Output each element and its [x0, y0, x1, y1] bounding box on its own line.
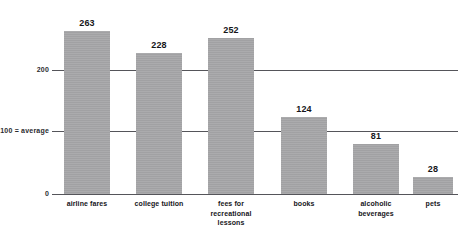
- y-axis-label-200: 200: [37, 66, 49, 73]
- bar-pets: [413, 177, 453, 194]
- x-axis-category-label: college tuition: [122, 199, 196, 209]
- bar-value-label: 28: [413, 164, 453, 174]
- bar-college-tuition: [136, 53, 182, 194]
- bar-value-label: 263: [64, 18, 110, 28]
- y-tick-mark-200: [52, 70, 58, 71]
- bar-airline-fares: [64, 31, 110, 194]
- bar-value-label: 81: [353, 131, 399, 141]
- y-axis-label-0: 0: [45, 190, 49, 197]
- y-axis-label-100-average: 100 = average: [0, 127, 49, 134]
- bar-chart: 200 100 = average 0 263 228 252 124 81 2…: [0, 0, 472, 245]
- x-axis-category-label: airline fares: [50, 199, 124, 209]
- bar-value-label: 252: [208, 25, 254, 35]
- bar-fees-for-recreational-lessons: [208, 38, 254, 194]
- gridline-200: [58, 70, 458, 71]
- bar-value-label: 124: [281, 104, 327, 114]
- plot-area: 200 100 = average 0 263 228 252 124 81 2…: [0, 0, 472, 245]
- axis-baseline-0: [58, 194, 458, 195]
- bar-value-label: 228: [136, 40, 182, 50]
- x-axis-category-label: books: [267, 199, 341, 209]
- bar-alcoholic-beverages: [353, 144, 399, 194]
- x-axis-category-label: pets: [399, 199, 467, 209]
- x-axis-category-label: fees for recreational lessons: [194, 199, 268, 228]
- y-tick-mark-0: [52, 194, 58, 195]
- bar-books: [281, 117, 327, 194]
- y-tick-mark-100: [52, 131, 58, 132]
